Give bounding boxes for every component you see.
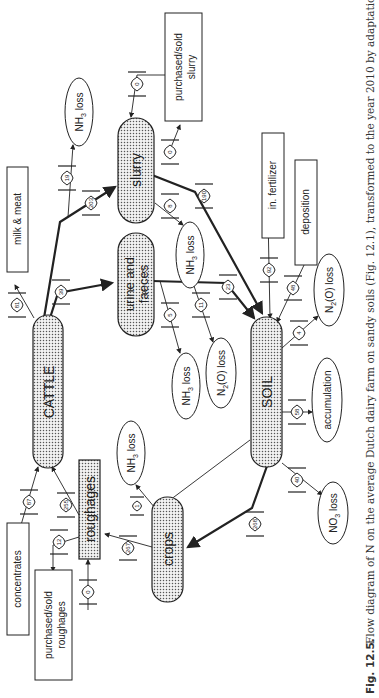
purchased-slurry-label-1: purchased/sold bbox=[173, 33, 184, 101]
deposition-label: deposition bbox=[300, 189, 311, 235]
valve-slurry-nh3: 19 bbox=[58, 166, 76, 190]
svg-text:267: 267 bbox=[125, 542, 131, 553]
fertilizer-label: in. fertilizer bbox=[267, 160, 278, 209]
node-nh3-loss-urine: NH3 loss bbox=[172, 353, 200, 419]
svg-text:48: 48 bbox=[290, 284, 296, 291]
node-roughages: roughages bbox=[79, 460, 100, 559]
svg-text:255: 255 bbox=[63, 499, 69, 510]
valve-crops-roughages: 267 bbox=[119, 536, 137, 560]
svg-text:203: 203 bbox=[88, 197, 94, 208]
figure-caption: Fig. 12.5. Flow diagram of N on the aver… bbox=[364, 0, 376, 694]
valve-slurry-sold: 0 bbox=[161, 140, 179, 164]
node-crops: crops bbox=[152, 497, 183, 602]
nitrogen-flow-diagram: CATTLE slurry urine and faeces SOIL crop… bbox=[0, 0, 379, 698]
accumulation-label: accumulation bbox=[322, 371, 333, 430]
node-soil: SOIL bbox=[251, 317, 282, 467]
node-in-fertilizer: in. fertilizer bbox=[262, 133, 284, 238]
valve-urine-n2o: 11 bbox=[192, 293, 210, 317]
edge-urine-n2o bbox=[193, 283, 213, 342]
node-purchased-slurry: purchased/sold slurry bbox=[165, 13, 202, 121]
valve-slurry-soil: 190 bbox=[195, 184, 213, 208]
figure-caption-text: Flow diagram of N on the average Dutch d… bbox=[364, 0, 376, 644]
valve-cattle-slurry: 203 bbox=[82, 191, 100, 215]
node-nh3-loss-storage: NH3 loss bbox=[176, 222, 204, 288]
svg-text:40: 40 bbox=[294, 476, 300, 483]
faeces-label: faeces bbox=[136, 264, 151, 303]
roughages-label: roughages bbox=[82, 476, 98, 542]
node-concentrates: concentrates bbox=[7, 523, 29, 635]
svg-text:23: 23 bbox=[225, 283, 231, 290]
valve-soil-accumulation: 58 bbox=[288, 400, 306, 424]
purchased-roughages-label-1: purchased/sold bbox=[43, 591, 54, 659]
node-purchased-roughages: purchased/sold roughages bbox=[35, 570, 72, 680]
node-cattle: CATTLE bbox=[33, 315, 63, 468]
svg-text:87: 87 bbox=[26, 498, 32, 505]
valve-concentrates-cattle: 87 bbox=[20, 490, 38, 514]
edge-cattle-slurry bbox=[44, 187, 115, 318]
soil-label: SOIL bbox=[259, 376, 275, 408]
slurry-label: slurry bbox=[128, 153, 144, 187]
node-no3-loss: NO3 loss bbox=[318, 482, 348, 544]
node-accumulation: accumulation bbox=[312, 358, 342, 442]
svg-text:81: 81 bbox=[14, 301, 20, 308]
purchased-slurry-label-2: slurry bbox=[186, 55, 197, 79]
valve-deposition-soil: 48 bbox=[284, 276, 302, 300]
crops-label: crops bbox=[160, 532, 176, 566]
valve-soil-n2o: 4 bbox=[290, 321, 308, 345]
concentrates-label: concentrates bbox=[12, 550, 23, 607]
valve-milk-meat: 81 bbox=[8, 293, 26, 317]
valve-crops-nh3: 1 bbox=[130, 497, 144, 515]
valve-urine-nh3: 5 bbox=[161, 303, 179, 327]
purchased-roughages-label-2: roughages bbox=[56, 601, 67, 648]
node-urine-faeces: urine and faeces bbox=[118, 233, 154, 336]
cattle-label: CATTLE bbox=[41, 366, 57, 419]
node-deposition: deposition bbox=[295, 160, 317, 265]
svg-text:39: 39 bbox=[58, 288, 64, 295]
urine-label: urine and bbox=[122, 257, 137, 311]
svg-text:92: 92 bbox=[266, 266, 272, 273]
svg-text:19: 19 bbox=[64, 174, 70, 181]
svg-text:58: 58 bbox=[294, 408, 300, 415]
valve-soil-no3: 40 bbox=[288, 468, 306, 492]
edge-crops-soil bbox=[170, 440, 250, 500]
node-nh3-loss-slurry: NH3 loss bbox=[65, 78, 93, 146]
figure-label: Fig. 12.5. bbox=[364, 638, 376, 694]
svg-text:268: 268 bbox=[252, 518, 258, 529]
svg-text:190: 190 bbox=[201, 190, 207, 201]
node-milk-meat: milk & meat bbox=[7, 167, 28, 272]
valve-urine-soil: 23 bbox=[219, 275, 237, 299]
svg-text:11: 11 bbox=[198, 301, 204, 308]
milk-meat-label: milk & meat bbox=[12, 193, 23, 245]
node-n2o-loss-urine: N2(O) loss bbox=[206, 338, 236, 408]
node-nh3-loss-crops: NH3 loss bbox=[117, 421, 145, 485]
valve-roughages-cattle: 255 bbox=[57, 493, 75, 517]
node-n2o-loss-soil: N2(O) loss bbox=[314, 254, 344, 326]
valve-soil-crops: 268 bbox=[246, 512, 264, 536]
node-slurry: slurry bbox=[118, 118, 154, 223]
svg-text:12: 12 bbox=[56, 538, 62, 545]
